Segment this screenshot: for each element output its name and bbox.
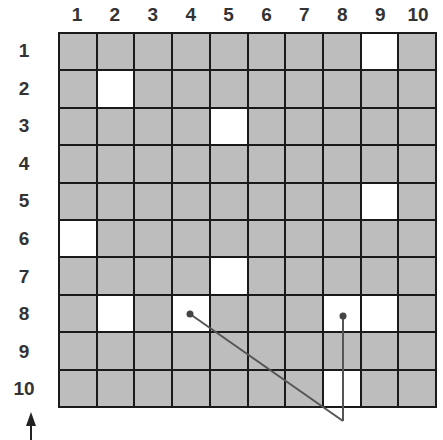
grid-cell-r8-c7 (286, 296, 322, 331)
grid-cell-r2-c7 (286, 71, 322, 106)
grid-cell-r6-c4 (173, 221, 209, 256)
row-label-2: 2 (0, 78, 48, 100)
grid-cell-r7-c3 (135, 258, 171, 293)
column-label-8: 8 (323, 4, 361, 26)
grid-cell-r10-c2 (98, 371, 134, 406)
grid-cell-r3-c8 (324, 109, 360, 144)
grid-cell-r2-c9 (362, 71, 398, 106)
grid-cell-r2-c3 (135, 71, 171, 106)
grid-cell-r10-c3 (135, 371, 171, 406)
column-label-6: 6 (248, 4, 286, 26)
column-label-3: 3 (134, 4, 172, 26)
grid-cell-r10-c6 (249, 371, 285, 406)
grid-cell-r10-c9 (362, 371, 398, 406)
grid-cell-r8-c8 (324, 296, 360, 331)
grid-cell-r1-c4 (173, 34, 209, 69)
grid-cell-r4-c3 (135, 146, 171, 181)
grid-cell-r4-c8 (324, 146, 360, 181)
grid-cell-r10-c4 (173, 371, 209, 406)
grid-cell-r3-c7 (286, 109, 322, 144)
grid-cell-r10-c10 (399, 371, 435, 406)
grid-cell-r2-c4 (173, 71, 209, 106)
grid-cell-r7-c1 (60, 258, 96, 293)
grid-cell-r7-c9 (362, 258, 398, 293)
column-label-1: 1 (58, 4, 96, 26)
column-label-7: 7 (285, 4, 323, 26)
row-label-8: 8 (0, 303, 48, 325)
grid-cell-r3-c10 (399, 109, 435, 144)
column-label-9: 9 (361, 4, 399, 26)
grid-cell-r6-c8 (324, 221, 360, 256)
grid-cell-r1-c5 (211, 34, 247, 69)
grid-cell-r10-c1 (60, 371, 96, 406)
grid-cell-r10-c5 (211, 371, 247, 406)
grid-cell-r8-c3 (135, 296, 171, 331)
grid-cell-r2-c8 (324, 71, 360, 106)
grid-cell-r1-c3 (135, 34, 171, 69)
grid-cell-r5-c9 (362, 184, 398, 219)
grid-cell-r6-c2 (98, 221, 134, 256)
grid-cell-r4-c10 (399, 146, 435, 181)
grid-cell-r6-c5 (211, 221, 247, 256)
grid-cell-r4-c5 (211, 146, 247, 181)
grid-cell-r4-c1 (60, 146, 96, 181)
grid-cell-r1-c1 (60, 34, 96, 69)
grid-cell-r6-c10 (399, 221, 435, 256)
grid-cell-r4-c7 (286, 146, 322, 181)
grid-cell-r7-c4 (173, 258, 209, 293)
grid-cell-r5-c1 (60, 184, 96, 219)
grid-cell-r3-c3 (135, 109, 171, 144)
grid-cell-r4-c9 (362, 146, 398, 181)
grid-cell-r10-c8 (324, 371, 360, 406)
grid-cell-r9-c4 (173, 333, 209, 368)
grid-cell-r8-c10 (399, 296, 435, 331)
row-label-1: 1 (0, 40, 48, 62)
grid-cell-r3-c2 (98, 109, 134, 144)
grid-cell-r9-c5 (211, 333, 247, 368)
grid-cell-r7-c5 (211, 258, 247, 293)
column-label-2: 2 (96, 4, 134, 26)
grid-cell-r6-c1 (60, 221, 96, 256)
grid-cell-r1-c7 (286, 34, 322, 69)
grid-cell-r8-c4 (173, 296, 209, 331)
grid-cell-r4-c2 (98, 146, 134, 181)
grid-cell-r9-c10 (399, 333, 435, 368)
grid-cell-r3-c5 (211, 109, 247, 144)
column-label-10: 10 (399, 4, 437, 26)
grid-cell-r8-c2 (98, 296, 134, 331)
grid-cell-r9-c6 (249, 333, 285, 368)
row-label-5: 5 (0, 190, 48, 212)
grid-cell-r8-c6 (249, 296, 285, 331)
grid-cell-r2-c2 (98, 71, 134, 106)
grid-cell-r1-c8 (324, 34, 360, 69)
up-arrow-icon (26, 412, 36, 440)
grid-cell-r2-c5 (211, 71, 247, 106)
grid-cell-r2-c1 (60, 71, 96, 106)
grid-cell-r7-c7 (286, 258, 322, 293)
grid-cell-r2-c6 (249, 71, 285, 106)
row-label-6: 6 (0, 228, 48, 250)
grid-cell-r5-c3 (135, 184, 171, 219)
grid-cell-r1-c2 (98, 34, 134, 69)
grid-cell-r8-c9 (362, 296, 398, 331)
grid-cell-r6-c6 (249, 221, 285, 256)
row-label-3: 3 (0, 115, 48, 137)
grid-cell-r7-c6 (249, 258, 285, 293)
grid-cell-r3-c9 (362, 109, 398, 144)
row-label-4: 4 (0, 153, 48, 175)
grid-cell-r4-c6 (249, 146, 285, 181)
row-label-9: 9 (0, 341, 48, 363)
grid-cell-r9-c9 (362, 333, 398, 368)
grid-cell-r5-c10 (399, 184, 435, 219)
grid-cell-r5-c8 (324, 184, 360, 219)
grid (58, 32, 437, 408)
grid-cell-r4-c4 (173, 146, 209, 181)
row-label-7: 7 (0, 266, 48, 288)
grid-cell-r1-c6 (249, 34, 285, 69)
grid-cell-r9-c7 (286, 333, 322, 368)
row-label-10: 10 (0, 378, 48, 400)
grid-cell-r10-c7 (286, 371, 322, 406)
grid-cell-r5-c4 (173, 184, 209, 219)
grid-cell-r7-c10 (399, 258, 435, 293)
grid-cell-r6-c9 (362, 221, 398, 256)
